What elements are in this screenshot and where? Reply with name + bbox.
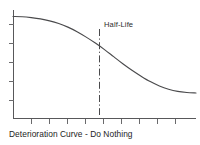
plot-area	[0, 0, 200, 145]
figure-caption: Deterioration Curve - Do Nothing	[9, 130, 133, 138]
deterioration-curve-figure: Half-Life Deterioration Curve - Do Nothi…	[0, 0, 200, 145]
y-axis	[9, 10, 14, 119]
half-life-label: Half-Life	[104, 21, 133, 29]
x-axis	[14, 119, 197, 124]
